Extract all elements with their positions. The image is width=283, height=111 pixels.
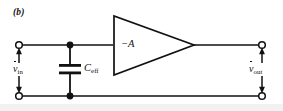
terminal-input-bottom (16, 93, 23, 100)
input-voltage-arrow-down (16, 76, 22, 93)
terminal-output-top (259, 42, 266, 49)
input-voltage-arrow-up (16, 48, 22, 63)
input-voltage-subscript: in (17, 68, 23, 75)
output-voltage-arrow-down (259, 76, 265, 93)
capacitor-subscript: eff (91, 67, 99, 74)
page-edge-shadow (0, 104, 283, 111)
input-voltage-label: vin (13, 64, 23, 74)
gain-text: −A (121, 38, 135, 49)
circuit-schematic-svg (0, 0, 283, 111)
junction-dot-bottom (67, 93, 74, 100)
terminal-input-top (16, 42, 23, 49)
output-voltage-arrow-up (259, 48, 265, 63)
capacitor-label: Ceff (84, 63, 99, 74)
capacitor-plate-lower (59, 72, 81, 75)
panel-label: (b) (13, 7, 25, 17)
circuit-figure: (b) −A Ceff vin vout (0, 0, 283, 111)
amplifier-gain-label: −A (121, 39, 135, 50)
junction-dot-top (67, 42, 74, 49)
terminal-output-bottom (259, 93, 266, 100)
output-voltage-subscript: out (253, 68, 262, 75)
capacitor-plate-upper (59, 64, 81, 67)
output-voltage-label: vout (249, 64, 262, 74)
capacitor-symbol: C (84, 62, 91, 73)
